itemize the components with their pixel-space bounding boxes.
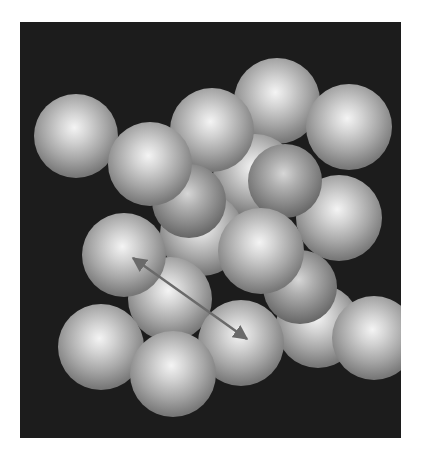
- sphere: [332, 296, 401, 380]
- sphere: [108, 122, 192, 206]
- sphere: [248, 144, 322, 218]
- sphere-packing-figure: [20, 22, 401, 438]
- sphere: [306, 84, 392, 170]
- sphere: [130, 331, 216, 417]
- sphere: [34, 94, 118, 178]
- sphere: [82, 213, 166, 297]
- sphere: [218, 208, 304, 294]
